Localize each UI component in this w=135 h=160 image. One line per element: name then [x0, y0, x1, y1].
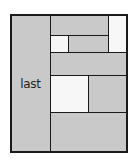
- cell-label-last: last: [11, 77, 50, 91]
- partition-diagram: last: [0, 0, 135, 160]
- cell-row5-bottom: [50, 112, 128, 153]
- cell-row2-small: [50, 35, 69, 53]
- cell-row1-right: [108, 14, 128, 53]
- cell-row2-mid: [68, 35, 109, 53]
- cell-row4-right: [88, 75, 128, 113]
- cell-row4-left: [50, 75, 89, 113]
- cell-row3-wide: [50, 52, 128, 76]
- cell-row1-left: [50, 14, 109, 36]
- cell-last: last: [10, 14, 51, 153]
